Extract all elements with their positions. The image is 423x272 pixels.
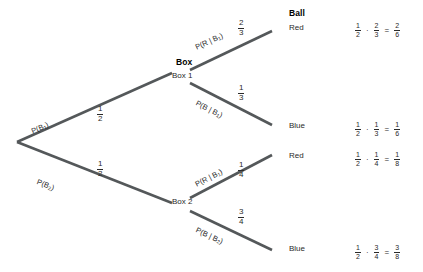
equals-operator: = <box>383 155 390 164</box>
equation-row-red-box2: 1 2 · 1 4 = 1 8 <box>355 151 400 167</box>
prob-fraction-r-given-b1: 2 3 <box>238 19 244 37</box>
leaf-red-box1: Red <box>289 24 304 32</box>
column-header-box: Box <box>176 58 192 67</box>
prob-fraction-b-given-b2: 3 4 <box>238 208 244 226</box>
node-box-1: Box 1 <box>172 72 192 80</box>
branch-line-b2 <box>17 142 172 203</box>
equals-operator: = <box>383 125 390 134</box>
equation-row-blue-box2: 1 2 · 3 4 = 3 8 <box>355 244 400 260</box>
multiply-operator: · <box>365 125 370 134</box>
equals-operator: = <box>383 248 390 257</box>
leaf-red-box2: Red <box>289 152 304 160</box>
column-header-ball: Ball <box>289 9 305 18</box>
prob-fraction-b2: 1 2 <box>97 160 103 178</box>
branch-line-r-given-b1 <box>190 31 272 70</box>
prob-fraction-r-given-b2: 1 4 <box>238 161 244 179</box>
multiply-operator: · <box>365 155 370 164</box>
equation-row-blue-box1: 1 2 · 1 3 = 1 6 <box>355 121 400 137</box>
probability-tree-diagram: Box Ball Box 1 Box 2 Red Blue Red Blue 1… <box>0 0 423 272</box>
multiply-operator: · <box>365 26 370 35</box>
equation-row-red-box1: 1 2 · 2 3 = 2 6 <box>355 22 400 38</box>
prob-fraction-b-given-b1: 1 3 <box>238 84 244 102</box>
multiply-operator: · <box>365 248 370 257</box>
node-box-2: Box 2 <box>172 198 192 206</box>
prob-fraction-b1: 1 2 <box>97 105 103 123</box>
equals-operator: = <box>383 26 390 35</box>
leaf-blue-box2: Blue <box>289 245 305 253</box>
leaf-blue-box1: Blue <box>289 122 305 130</box>
